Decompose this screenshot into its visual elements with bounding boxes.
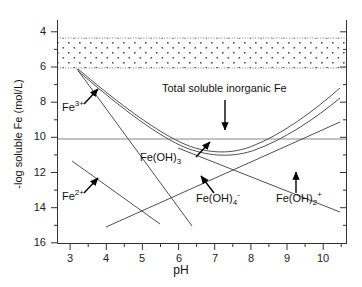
annotation-label-fe3-plus: Fe3+ <box>62 99 84 113</box>
y-tick-label-6: 6 <box>24 60 46 72</box>
annotation-label-fe2-plus: Fe2+ <box>62 188 84 202</box>
figure-container: 4 6 8 10 12 14 16 3 4 5 6 7 8 9 10 pH -l… <box>0 0 362 287</box>
shaded-dot-band <box>58 38 347 68</box>
annotation-label-total-soluble-fe: Total soluble inorganic Fe <box>162 82 287 94</box>
y-tick-label-10: 10 <box>24 130 46 142</box>
solubility-plot <box>0 0 362 287</box>
y-axis-title: -log soluble Fe (mol/L) <box>12 44 24 224</box>
annotation-label-feoh2-plus: Fe(OH)2+ <box>276 190 322 207</box>
annotation-label-feoh3: Fe(OH)3 <box>140 151 181 166</box>
y-tick-label-4: 4 <box>24 25 46 37</box>
y-tick-label-8: 8 <box>24 95 46 107</box>
y-tick-label-14: 14 <box>24 201 46 213</box>
y-tick-label-16: 16 <box>24 236 46 248</box>
annotation-label-feoh4-minus: Fe(OH)4- <box>196 190 240 207</box>
y-axis-major-ticks <box>51 32 58 243</box>
y-tick-label-12: 12 <box>24 166 46 178</box>
x-axis-title: pH <box>0 263 362 277</box>
